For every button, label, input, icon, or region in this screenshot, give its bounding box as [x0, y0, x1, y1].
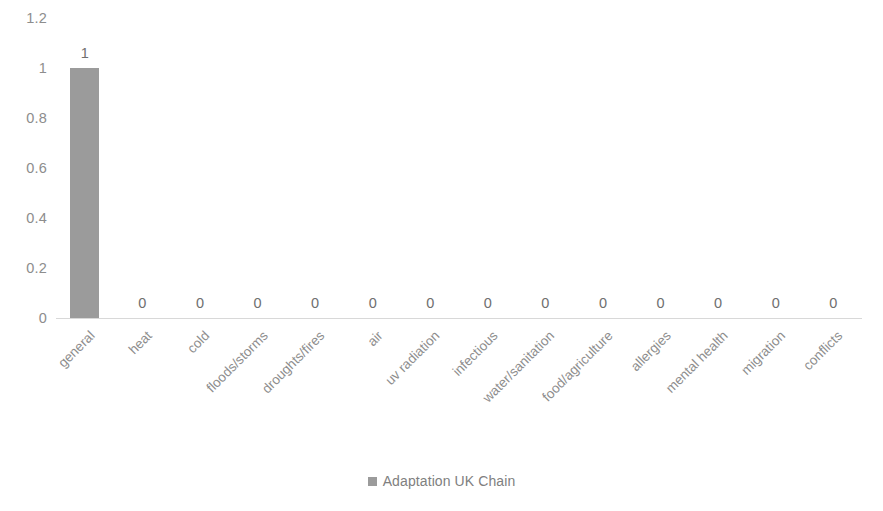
bar-value-label: 0: [253, 295, 261, 311]
bar-slot: 0: [632, 18, 690, 318]
category-label-slot: droughts/fires: [286, 322, 344, 442]
bar-slot: 0: [229, 18, 287, 318]
bar-slot: 0: [689, 18, 747, 318]
bar-slot: 0: [286, 18, 344, 318]
chart-page: 00.20.40.60.811.2 10000000000000 general…: [0, 0, 883, 511]
category-label-slot: migration: [747, 322, 805, 442]
category-label-slot: heat: [114, 322, 172, 442]
y-axis-tick-label: 0.6: [26, 160, 47, 176]
bar-slot: 0: [459, 18, 517, 318]
bar-series-adaptation-uk-chain: 10000000000000: [56, 18, 862, 318]
bar-value-label: 0: [541, 295, 549, 311]
category-label-slot: mental health: [689, 322, 747, 442]
bar-value-label: 0: [714, 295, 722, 311]
bar-slot: 0: [171, 18, 229, 318]
bar-slot: 0: [114, 18, 172, 318]
y-axis-tick-label: 0: [39, 310, 47, 326]
bar-slot: 0: [401, 18, 459, 318]
bar-value-label: 0: [369, 295, 377, 311]
category-label-slot: food/agriculture: [574, 322, 632, 442]
bar-slot: 0: [805, 18, 863, 318]
x-axis-category-label: air: [364, 328, 385, 349]
x-axis-category-label: general: [55, 328, 97, 370]
bar-value-label: 0: [829, 295, 837, 311]
bar-slot: 0: [574, 18, 632, 318]
plot-area: 00.20.40.60.811.2 10000000000000: [56, 18, 862, 318]
y-axis-tick-label: 0.8: [26, 110, 47, 126]
bar-value-label: 0: [484, 295, 492, 311]
x-axis-line: [56, 318, 862, 319]
x-axis-category-labels: generalheatcoldfloods/stormsdroughts/fir…: [56, 322, 862, 442]
bar-slot: 0: [517, 18, 575, 318]
bar-value-label: 1: [81, 45, 89, 61]
bar-value-label: 0: [138, 295, 146, 311]
bar-slot: 0: [344, 18, 402, 318]
bar-value-label: 0: [426, 295, 434, 311]
chart-legend: Adaptation UK Chain: [0, 473, 883, 489]
bar-value-label: 0: [311, 295, 319, 311]
x-axis-category-label: allergies: [627, 328, 673, 374]
bar-slot: 0: [747, 18, 805, 318]
y-axis-tick-label: 0.2: [26, 260, 47, 276]
bar[interactable]: 1: [70, 68, 99, 318]
bar-value-label: 0: [657, 295, 665, 311]
legend-label: Adaptation UK Chain: [383, 473, 516, 489]
cropped-title-remnant: [0, 0, 883, 6]
x-axis-category-label: heat: [126, 328, 155, 357]
bar-value-label: 0: [196, 295, 204, 311]
category-label-slot: general: [56, 322, 114, 442]
legend-square-marker-icon: [368, 477, 377, 486]
y-axis-tick-label: 0.4: [26, 210, 47, 226]
bar-slot: 1: [56, 18, 114, 318]
bar-value-label: 0: [772, 295, 780, 311]
x-axis-category-label: conflicts: [801, 328, 846, 373]
bar-value-label: 0: [599, 295, 607, 311]
y-axis-tick-label: 1.2: [26, 10, 47, 26]
x-axis-category-label: cold: [184, 328, 212, 356]
y-axis-tick-label: 1: [39, 60, 47, 76]
category-label-slot: uv radiation: [401, 322, 459, 442]
category-label-slot: conflicts: [805, 322, 863, 442]
